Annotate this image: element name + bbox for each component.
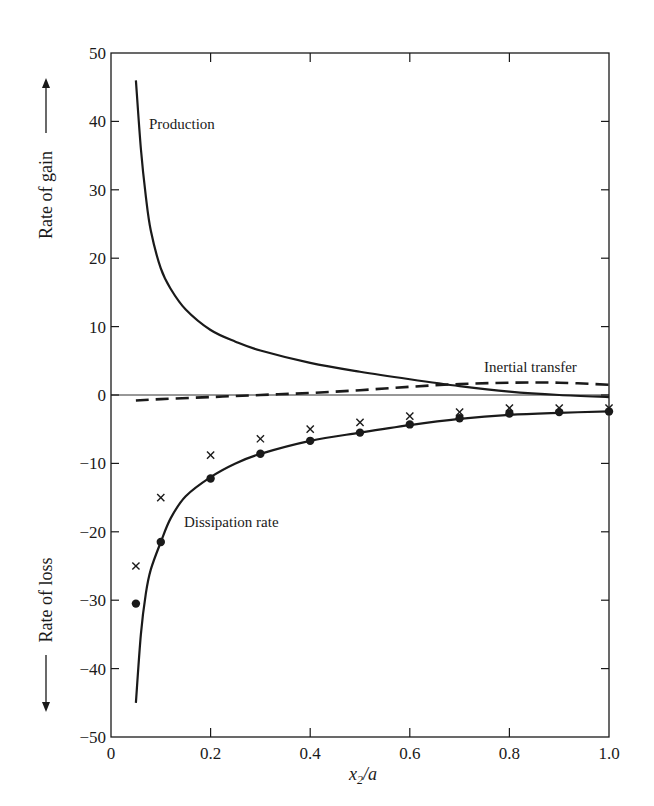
- y-tick-label: 40: [89, 112, 106, 131]
- dot-marker: [356, 428, 364, 436]
- dot-marker: [306, 437, 314, 445]
- y-tick-label: −50: [79, 728, 106, 747]
- y-tick-label: 20: [89, 249, 106, 268]
- cross-marker: [207, 452, 214, 459]
- data-series: [136, 80, 609, 702]
- y-tick-label: 0: [98, 386, 107, 405]
- chart-canvas: 50403020100−10−20−30−40−5000.20.40.60.81…: [0, 0, 654, 806]
- dot-marker: [206, 474, 214, 482]
- data-markers: [132, 404, 614, 607]
- y-tick-label: −20: [79, 523, 106, 542]
- plot-axes: [111, 53, 609, 737]
- cross-marker: [257, 435, 264, 442]
- x-tick-label: 0.2: [200, 744, 221, 763]
- x-tick-label: 0.6: [399, 744, 420, 763]
- up-arrow-icon: [42, 78, 50, 133]
- dot-marker: [256, 450, 264, 458]
- annotation-production: Production: [149, 116, 215, 132]
- svg-text:Rate of loss: Rate of loss: [36, 558, 56, 643]
- x-tick-label: 1.0: [598, 744, 619, 763]
- y-tick-label: −10: [79, 454, 106, 473]
- y-tick-label: −40: [79, 660, 106, 679]
- y-axis-title-loss: Rate of loss: [36, 558, 56, 643]
- cross-marker: [406, 413, 413, 420]
- x-axis-title: x2/a: [348, 764, 377, 787]
- dot-marker: [157, 538, 165, 546]
- svg-text:Rate of gain: Rate of gain: [36, 151, 56, 239]
- cross-marker: [132, 562, 139, 569]
- series-inertial-transfer: [136, 382, 609, 400]
- y-tick-label: −30: [79, 591, 106, 610]
- x-tick-label: 0: [107, 744, 116, 763]
- cross-marker: [356, 419, 363, 426]
- y-axis-title-gain: Rate of gain: [36, 151, 56, 239]
- annotation-dissipation-rate: Dissipation rate: [184, 514, 279, 530]
- cross-marker: [157, 494, 164, 501]
- dot-marker: [132, 599, 140, 607]
- y-tick-label: 50: [89, 44, 106, 63]
- series-dissipation-rate: [136, 411, 609, 702]
- x-tick-label: 0.4: [300, 744, 322, 763]
- annotation-inertial-transfer: Inertial transfer: [484, 359, 577, 375]
- down-arrow-icon: [42, 655, 50, 712]
- x-tick-label: 0.8: [499, 744, 520, 763]
- y-tick-label: 10: [89, 318, 106, 337]
- y-tick-label: 30: [89, 181, 106, 200]
- axis-ticks: 50403020100−10−20−30−40−5000.20.40.60.81…: [79, 44, 619, 763]
- dot-marker: [406, 420, 414, 428]
- cross-marker: [307, 426, 314, 433]
- dot-marker: [555, 408, 563, 416]
